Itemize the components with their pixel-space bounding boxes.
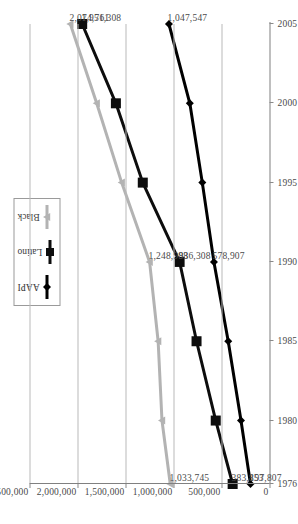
data-point-marker [237,417,245,425]
x-axis-label: 1990 [278,257,298,267]
y-axis-label: 2,500,000 [0,487,29,497]
chart-legend: AAPILatinoBlack [14,198,61,306]
x-axis-label: 1985 [278,336,298,346]
chart-plot-area: AAPILatinoBlack 2,500,0002,000,0001,500,… [12,0,298,524]
data-point-marker [111,98,121,108]
y-axis-label: 2,000,000 [37,487,77,497]
chart-rotation-frame: AAPILatinoBlack 2,500,0002,000,0001,500,… [12,0,298,524]
data-point-marker [198,179,206,187]
legend-swatch-square-icon [44,239,55,265]
gridline [126,24,127,484]
data-point-marker [46,248,54,256]
gridline [78,24,79,484]
gridline [30,24,31,484]
x-axis-line [270,22,271,484]
x-axis-tick [270,23,274,24]
legend-swatch-diamond-icon [42,274,53,300]
y-axis-tick [222,484,223,488]
x-axis-label: 2000 [278,98,298,108]
data-point-marker [224,337,232,345]
y-axis-tick [126,484,127,488]
x-axis-tick [270,340,274,341]
data-point-label: 197,807 [250,473,282,483]
y-axis-label: 1,500,000 [85,487,125,497]
legend-item-black[interactable]: Black [18,204,53,230]
y-axis-line [30,483,270,484]
legend-item-latino[interactable]: Latino [18,239,56,265]
x-axis-label: 2005 [278,19,298,29]
y-axis-label: 500,000 [188,487,220,497]
data-point-marker [186,99,194,107]
data-point-label: 578,907 [213,251,245,261]
x-axis-tick [270,102,274,103]
data-point-marker [138,178,148,188]
data-point-marker [43,283,51,291]
x-axis-tick [270,483,274,484]
data-point-marker [211,416,221,426]
y-axis-tick [78,484,79,488]
legend-item-aapi[interactable]: AAPI [18,274,53,300]
x-axis-tick [270,182,274,183]
y-axis-tick [270,484,271,488]
y-axis-tick [30,484,31,488]
data-point-label: 1,951,308 [81,13,121,23]
x-axis-label: 1995 [278,178,298,188]
y-axis-tick [174,484,175,488]
y-axis-label: 0 [264,487,269,497]
data-point-label: 1,047,547 [168,13,208,23]
data-point-label: 936,308 [179,251,211,261]
x-axis-label: 1980 [278,416,298,426]
x-axis-tick [270,420,274,421]
data-point-marker [192,336,202,346]
legend-swatch-triangle-icon [42,204,53,230]
y-axis-label: 1,000,000 [133,487,173,497]
x-axis-tick [270,261,274,262]
data-point-label: 1,033,745 [169,473,209,483]
